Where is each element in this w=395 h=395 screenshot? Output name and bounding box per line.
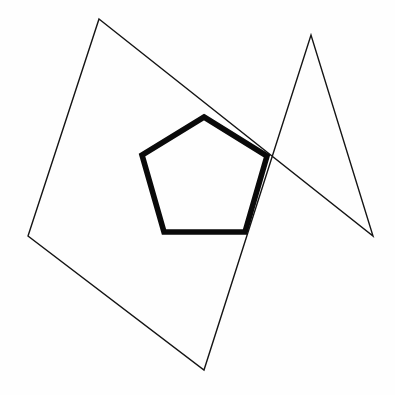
figure-canvas (0, 0, 395, 395)
pentagram-diagram (0, 0, 395, 395)
canvas-background (0, 0, 395, 395)
